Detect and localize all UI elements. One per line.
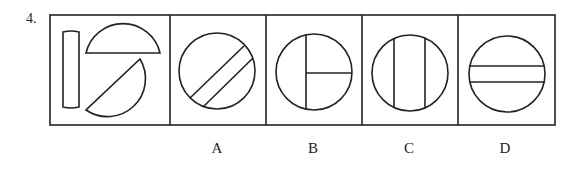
option-c-label[interactable]: C [399,140,419,157]
option-a-figure [179,33,255,109]
cut-line [190,46,244,98]
segment-piece [86,59,145,117]
cut-line [203,58,253,107]
semicircle-piece [86,24,160,53]
option-c-figure [372,35,448,111]
stem-panel [63,24,160,117]
option-d-figure [469,36,545,112]
circle [276,34,352,110]
rectangle-piece [63,31,79,108]
option-b-label[interactable]: B [303,140,323,157]
option-a-label[interactable]: A [207,140,227,157]
circle [372,35,448,111]
option-d-label[interactable]: D [495,140,515,157]
circle [469,36,545,112]
option-b-figure [276,34,352,110]
puzzle-figure [0,0,580,169]
